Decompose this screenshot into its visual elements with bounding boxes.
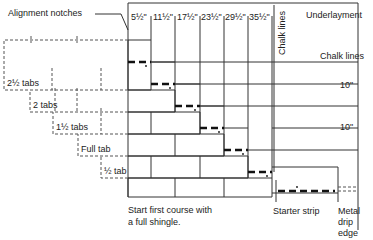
offset-label-6: 35½" xyxy=(249,12,270,22)
starter-strip-label: Starter strip xyxy=(273,206,320,216)
exposure-label-1: 10" xyxy=(340,80,353,90)
drip-edge-label-2: drip xyxy=(338,217,353,227)
offset-label-1: 5½" xyxy=(131,12,147,22)
start-note-line-2: a full shingle. xyxy=(128,217,181,227)
tab-label-2-5: 2½ tabs xyxy=(7,78,39,88)
drip-edge-label-1: Metal xyxy=(338,206,360,216)
tab-label-2: 2 tabs xyxy=(33,100,58,110)
exposure-label-2: 10" xyxy=(340,122,353,132)
start-note-line-1: Start first course with xyxy=(128,205,212,215)
tab-label-full: Full tab xyxy=(81,144,111,154)
underlayment-label: Underlayment xyxy=(306,10,362,20)
offset-label-2: 11½" xyxy=(153,12,173,22)
tab-label-1-5: 1½ tabs xyxy=(56,122,88,132)
starter-strip xyxy=(272,167,338,193)
drip-edge-label-3: edge xyxy=(338,228,358,238)
alignment-notches-label: Alignment notches xyxy=(8,8,82,18)
offset-label-3: 17½" xyxy=(177,12,198,22)
chalk-lines-vertical-label: Chalk lines xyxy=(277,11,287,55)
chalk-lines-horizontal-label: Chalk lines xyxy=(320,51,364,61)
offset-label-5: 29½" xyxy=(225,12,246,22)
tab-label-half: ½ tab xyxy=(104,166,127,176)
roof-outline xyxy=(128,3,358,230)
offset-label-4: 23½" xyxy=(201,12,222,22)
shingle-layout-diagram xyxy=(0,0,373,240)
